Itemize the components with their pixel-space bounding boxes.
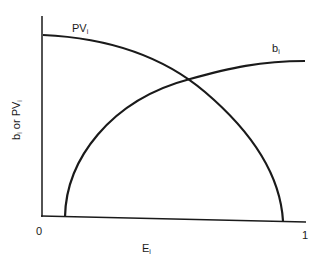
- pv-curve-label: PV_iPVi: [72, 22, 88, 34]
- x-axis: [41, 216, 306, 222]
- y-axis-label: bi or PVi: [10, 100, 22, 140]
- b-curve: [65, 61, 305, 217]
- x-tick-0: 0: [36, 225, 42, 237]
- diagram-canvas: [0, 0, 318, 269]
- x-tick-1: 1: [302, 229, 308, 241]
- x-axis-label: Ei: [142, 242, 151, 254]
- b-curve-label: bi: [272, 42, 280, 54]
- pv-curve: [43, 35, 283, 221]
